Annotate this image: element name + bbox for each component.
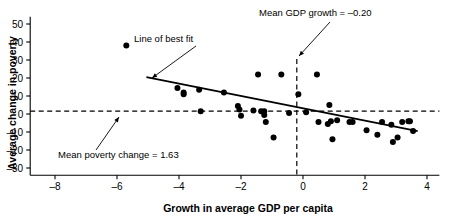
data-point [250, 107, 256, 113]
data-point [286, 110, 292, 116]
x-tick-label: –8 [49, 181, 61, 192]
data-point [261, 112, 267, 118]
data-point [326, 102, 332, 108]
data-point [334, 117, 340, 123]
data-point [388, 122, 394, 128]
data-point [390, 139, 396, 145]
data-point [174, 85, 180, 91]
data-point [364, 127, 370, 133]
chart-figure: –30–20–1001020304050 –8–6–4–2024 Line of… [0, 0, 454, 223]
data-point [198, 108, 204, 114]
data-point [328, 118, 334, 124]
scatter-plot-svg: –30–20–1001020304050 –8–6–4–2024 Line of… [0, 0, 454, 223]
data-point [410, 128, 416, 134]
x-tick-label: 2 [362, 181, 368, 192]
data-point [379, 119, 385, 125]
x-tick-label: –2 [235, 181, 247, 192]
data-point [238, 113, 244, 119]
data-point [399, 119, 405, 125]
x-tick-label: –6 [111, 181, 123, 192]
data-point [123, 43, 129, 49]
data-point [303, 109, 309, 115]
data-point [314, 71, 320, 77]
x-tick-label: 4 [424, 181, 430, 192]
data-point [255, 71, 261, 77]
mean-poverty-change-label: Mean poverty change = 1.63 [58, 149, 179, 160]
data-point [329, 136, 335, 142]
data-point [350, 119, 356, 125]
y-tick-label: 50 [12, 19, 24, 30]
data-point [221, 89, 227, 95]
x-axis-title: Growth in average GDP per capita [163, 202, 333, 214]
data-point [181, 91, 187, 97]
data-point [374, 132, 380, 138]
line-of-best-fit-label: Line of best fit [134, 33, 194, 44]
y-axis-title: Average change in poverty [6, 36, 18, 170]
data-point [236, 107, 242, 113]
x-tick-label: –4 [173, 181, 185, 192]
data-point [196, 87, 202, 93]
data-point [278, 71, 284, 77]
y-tick-label: 0 [18, 109, 24, 120]
mean-gdp-growth-label: Mean GDP growth = –0.20 [259, 7, 372, 18]
x-tick-label: 0 [300, 181, 306, 192]
data-point [407, 118, 413, 124]
data-point [295, 91, 301, 97]
data-point [271, 134, 277, 140]
data-point [316, 119, 322, 125]
data-point [395, 134, 401, 140]
data-point [263, 119, 269, 125]
